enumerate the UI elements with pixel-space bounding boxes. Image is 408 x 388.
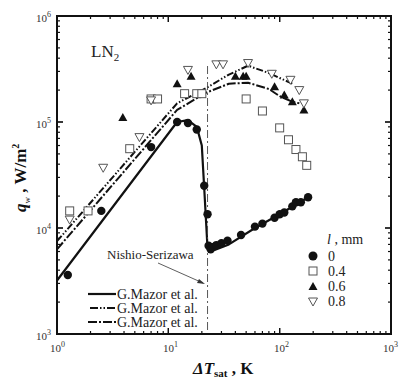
data-point-l0 <box>97 207 105 215</box>
legend-title: l , mm <box>327 232 363 247</box>
y-tick-1e6: 106 <box>36 10 51 24</box>
data-point-l08 <box>299 100 308 108</box>
data-point-l04 <box>284 136 292 144</box>
data-point-l08 <box>267 70 276 78</box>
data-point-l04 <box>198 90 206 98</box>
data-point-l04 <box>84 207 92 215</box>
data-point-l0 <box>304 193 312 201</box>
legend-marker-label-2: 0.4 <box>328 264 346 279</box>
arrow-head-icon <box>197 279 205 284</box>
legend-line-label-3: G.Mazor et al. <box>117 315 198 330</box>
data-point-l0 <box>203 210 211 218</box>
data-point-l04 <box>276 124 284 132</box>
y-tick-1e5: 105 <box>36 116 51 130</box>
y-axis-title: qw , W/m2 <box>10 144 32 212</box>
data-point-l06 <box>173 79 182 87</box>
chart: 106 105 104 103 100 101 102 103 ΔTsat , … <box>0 0 408 388</box>
data-point-l0 <box>251 222 259 230</box>
x-tick-1e0: 100 <box>50 340 65 354</box>
line-legend: G.Mazor et al. G.Mazor et al. G.Mazor et… <box>88 287 198 330</box>
x-axis-title: ΔTsat , K <box>192 359 254 379</box>
data-point-l0 <box>297 198 305 206</box>
y-tick-1e3: 103 <box>36 328 51 342</box>
data-point-l08 <box>295 87 304 95</box>
y-tick-1e4: 104 <box>36 222 51 236</box>
legend-marker-label-4: 0.8 <box>328 294 346 309</box>
x-tick-1e2: 102 <box>274 340 289 354</box>
filled-triangle-up-icon <box>309 282 318 290</box>
data-point-l06 <box>270 82 279 90</box>
data-point-l06 <box>280 90 289 98</box>
data-point-l04 <box>303 161 311 169</box>
data-point-l0 <box>147 143 155 151</box>
data-point-l0 <box>258 219 266 227</box>
legend-line-label-2: G.Mazor et al. <box>117 301 198 316</box>
data-point-l04 <box>242 95 250 103</box>
data-point-l0 <box>184 119 192 127</box>
data-point-l0 <box>223 236 231 244</box>
open-square-icon <box>309 267 317 275</box>
fluid-label: LN2 <box>91 42 119 63</box>
data-point-l08 <box>99 164 108 172</box>
annotation-arrow <box>158 263 203 283</box>
legend-line-label-1: G.Mazor et al. <box>117 287 198 302</box>
data-point-l04 <box>181 90 189 98</box>
x-tick-1e3: 103 <box>383 340 398 354</box>
data-point-l04 <box>298 153 306 161</box>
legend-marker-label-3: 0.6 <box>328 279 346 294</box>
filled-circle-icon <box>309 252 318 261</box>
data-point-l08 <box>65 216 74 224</box>
data-point-l04 <box>126 145 134 153</box>
data-point-l06 <box>118 113 127 121</box>
data-point-l0 <box>237 231 245 239</box>
data-point-l08 <box>135 134 144 142</box>
nishio-serizawa-label: Nishio-Serizawa <box>107 247 194 262</box>
data-point-l0 <box>64 271 72 279</box>
data-point-l0 <box>200 182 208 190</box>
marker-legend: l , mm 0 0.4 0.6 0.8 <box>309 232 364 309</box>
data-point-l0 <box>173 118 181 126</box>
data-point-l0 <box>280 208 288 216</box>
x-tick-1e1: 101 <box>163 340 178 354</box>
data-point-l0 <box>193 125 201 133</box>
data-point-l08 <box>219 61 228 69</box>
data-point-l04 <box>258 107 266 115</box>
open-triangle-down-icon <box>309 298 318 306</box>
legend-marker-label-1: 0 <box>328 249 335 264</box>
data-point-l04 <box>66 207 74 215</box>
